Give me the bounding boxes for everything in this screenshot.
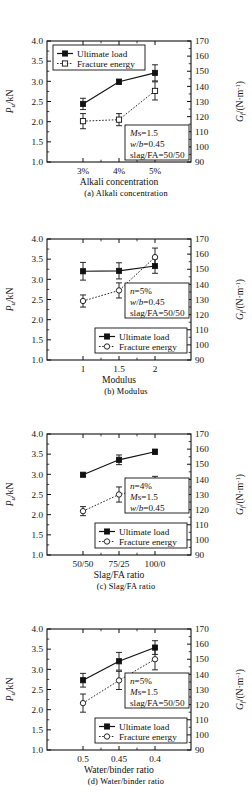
right-axis-tick-label: 130 — [195, 490, 209, 500]
series-ultimate-load — [80, 259, 158, 280]
chart-a: 1.01.52.02.53.03.54.09010011012013014015… — [0, 10, 252, 188]
legend: Ultimate loadFracture energy — [95, 523, 187, 548]
left-axis-tick-label: 3.0 — [32, 77, 44, 87]
right-axis-tick-label: 140 — [195, 280, 209, 290]
subfigure-c: 1.01.52.02.53.03.54.09010011012013014015… — [0, 403, 252, 591]
right-axis-tick-label: 150 — [195, 66, 209, 76]
right-axis-tick-label: 120 — [195, 112, 209, 122]
legend-marker-fracture-energy — [104, 539, 109, 544]
left-axis-label: Pu/kN — [4, 678, 16, 703]
x-axis-tick-label: 0.5 — [77, 754, 89, 764]
x-axis-tick-label: 50/50 — [73, 559, 94, 569]
data-point-filled-square — [116, 268, 121, 273]
series-fracture-energy — [80, 82, 158, 129]
plot-area-c: 1.01.52.02.53.03.54.09010011012013014015… — [0, 403, 252, 581]
x-axis-label: Slag/FA ratio — [94, 569, 145, 580]
x-axis-label: Water/binder ratio — [84, 764, 154, 775]
data-point-open-circle — [116, 288, 121, 293]
left-axis-tick-label: 3.5 — [32, 449, 44, 459]
svg-text:Gf/(N·m-1): Gf/(N·m-1) — [234, 474, 246, 515]
data-point-open-square — [80, 119, 85, 124]
annotation-line: w/b=0.45 — [130, 139, 165, 149]
annotation-line: n=5% — [130, 676, 152, 686]
right-axis-tick-label: 160 — [195, 51, 209, 61]
legend-marker-fracture-energy — [62, 61, 67, 66]
x-axis-tick-label: 0.4 — [149, 754, 161, 764]
left-axis-tick-label: 4.0 — [32, 36, 44, 46]
right-axis-tick-label: 170 — [195, 624, 209, 634]
svg-text:Gf/(N·m-1): Gf/(N·m-1) — [234, 669, 246, 710]
right-axis-tick-label: 90 — [195, 745, 205, 755]
legend: Ultimate loadFracture energy — [95, 328, 187, 353]
right-axis-tick-label: 140 — [195, 670, 209, 680]
svg-text:Gf/(N·m-1): Gf/(N·m-1) — [234, 81, 246, 122]
left-axis-tick-label: 1.0 — [32, 355, 44, 365]
caption-d: (d) Water/binder ratio — [0, 777, 252, 786]
right-axis-tick-label: 160 — [195, 639, 209, 649]
right-axis-tick-label: 150 — [195, 264, 209, 274]
right-axis-tick-label: 100 — [195, 142, 209, 152]
data-point-filled-square — [80, 269, 85, 274]
left-axis-tick-label: 1.5 — [32, 725, 44, 735]
legend: Ultimate loadFracture energy — [53, 45, 145, 70]
right-axis-tick-label: 100 — [195, 730, 209, 740]
caption-b: (b) Modulus — [0, 387, 252, 396]
right-axis-tick-label: 170 — [195, 429, 209, 439]
annotation-line: n=5% — [130, 286, 152, 296]
right-axis-tick-label: 120 — [195, 310, 209, 320]
legend-label-fracture-energy: Fracture energy — [77, 59, 135, 69]
data-point-filled-square — [116, 457, 121, 462]
right-axis-tick-label: 90 — [195, 157, 205, 167]
annotation-line: slag/FA=50/50 — [130, 150, 185, 160]
annotation-box: n=5%Ms=1.5slag/FA=50/50 — [125, 673, 189, 708]
right-axis-tick-label: 110 — [195, 127, 209, 137]
right-axis-tick-label: 160 — [195, 249, 209, 259]
caption-a: (a) Alkali concentration — [0, 189, 252, 198]
plot-area-d: 1.01.52.02.53.03.54.09010011012013014015… — [0, 598, 252, 776]
data-point-open-circle — [80, 700, 85, 705]
x-axis-tick-label: 1.5 — [113, 364, 125, 374]
left-axis-label: Pu/kN — [4, 288, 16, 313]
data-point-open-square — [152, 88, 157, 93]
right-axis-tick-label: 100 — [195, 340, 209, 350]
right-axis-tick-label: 170 — [195, 234, 209, 244]
figure-page: 1.01.52.02.53.03.54.09010011012013014015… — [0, 0, 252, 802]
x-axis-label: Modulus — [102, 374, 136, 385]
legend-marker-ultimate-load — [104, 724, 109, 729]
subfigure-a: 1.01.52.02.53.03.54.09010011012013014015… — [0, 10, 252, 198]
x-axis-tick-label: 75/25 — [109, 559, 130, 569]
legend: Ultimate loadFracture energy — [95, 718, 187, 743]
left-axis-tick-label: 1.5 — [32, 530, 44, 540]
legend-label-ultimate-load: Ultimate load — [119, 722, 170, 732]
left-axis-tick-label: 2.0 — [32, 510, 44, 520]
right-axis-tick-label: 100 — [195, 535, 209, 545]
left-axis-label: Pu/kN — [4, 90, 16, 115]
left-axis-tick-label: 3.0 — [32, 470, 44, 480]
right-axis-tick-label: 150 — [195, 459, 209, 469]
data-point-filled-square — [116, 79, 121, 84]
data-point-filled-square — [80, 101, 85, 106]
left-axis-tick-label: 2.0 — [32, 315, 44, 325]
annotation-line: Ms=1.5 — [129, 687, 158, 697]
chart-b: 1.01.52.02.53.03.54.09010011012013014015… — [0, 208, 252, 386]
svg-text:Pu/kN: Pu/kN — [4, 288, 16, 313]
left-axis-tick-label: 2.5 — [32, 685, 44, 695]
subfigure-d: 1.01.52.02.53.03.54.09010011012013014015… — [0, 598, 252, 786]
left-axis-tick-label: 1.5 — [32, 335, 44, 345]
x-axis-tick-label: 5% — [149, 166, 162, 176]
data-point-open-circle — [80, 298, 85, 303]
x-axis-tick-label: 4% — [113, 166, 126, 176]
series-ultimate-load — [80, 449, 158, 477]
chart-d: 1.01.52.02.53.03.54.09010011012013014015… — [0, 598, 252, 776]
annotation-line: Ms=1.5 — [129, 128, 158, 138]
data-point-filled-square — [152, 70, 157, 75]
plot-area-a: 1.01.52.02.53.03.54.09010011012013014015… — [0, 10, 252, 188]
data-point-filled-square — [152, 449, 157, 454]
legend-marker-ultimate-load — [104, 529, 109, 534]
svg-text:Pu/kN: Pu/kN — [4, 483, 16, 508]
right-axis-tick-label: 120 — [195, 700, 209, 710]
legend-marker-fracture-energy — [104, 734, 109, 739]
plot-area-b: 1.01.52.02.53.03.54.09010011012013014015… — [0, 208, 252, 386]
right-axis-tick-label: 130 — [195, 97, 209, 107]
series-ultimate-load — [80, 65, 158, 110]
